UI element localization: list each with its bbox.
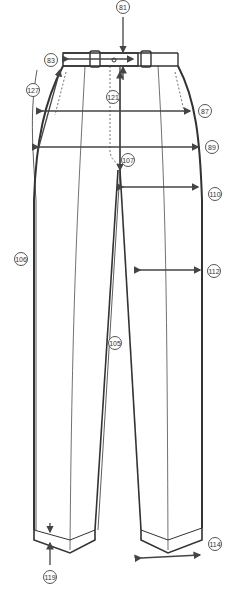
right-outseam — [178, 66, 202, 528]
measurement-label-106: 106 — [14, 252, 28, 266]
measurement-label-119: 119 — [43, 570, 57, 584]
measurement-label-87: 87 — [198, 104, 212, 118]
measurement-label-112: 112 — [207, 264, 221, 278]
measurement-label-114: 114 — [208, 537, 222, 551]
measurement-label-107: 107 — [121, 153, 135, 167]
measurement-label-81: 81 — [116, 0, 130, 14]
right-inseam — [120, 170, 141, 530]
measurement-label-89: 89 — [205, 140, 219, 154]
measurement-label-83: 83 — [44, 53, 58, 67]
measurement-label-121: 121 — [106, 90, 120, 104]
measurement-label-105: 105 — [108, 336, 122, 350]
measurement-label-127: 127 — [26, 83, 40, 97]
left-outseam — [34, 66, 63, 530]
measurement-label-110: 110 — [208, 187, 222, 201]
